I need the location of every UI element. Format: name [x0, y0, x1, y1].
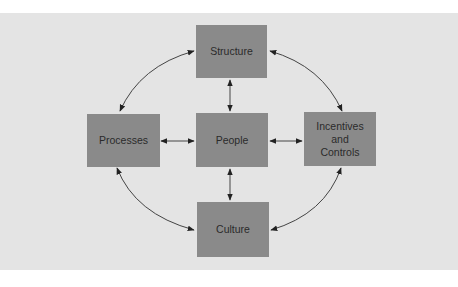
arc-structure-incentives — [270, 51, 342, 111]
node-structure: Structure — [196, 25, 267, 78]
node-processes: Processes — [87, 114, 160, 167]
arc-processes-culture — [117, 168, 194, 230]
arc-processes-structure — [120, 51, 194, 111]
arc-incentives-culture — [271, 168, 341, 230]
node-processes-label: Processes — [99, 134, 148, 147]
node-culture-label: Culture — [216, 223, 250, 236]
node-people-label: People — [216, 134, 249, 147]
node-incentives-label: Incentives and Controls — [316, 120, 363, 159]
node-incentives-and-controls: Incentives and Controls — [304, 112, 376, 166]
node-structure-label: Structure — [210, 45, 253, 58]
node-culture: Culture — [197, 202, 269, 257]
node-people: People — [196, 113, 268, 167]
